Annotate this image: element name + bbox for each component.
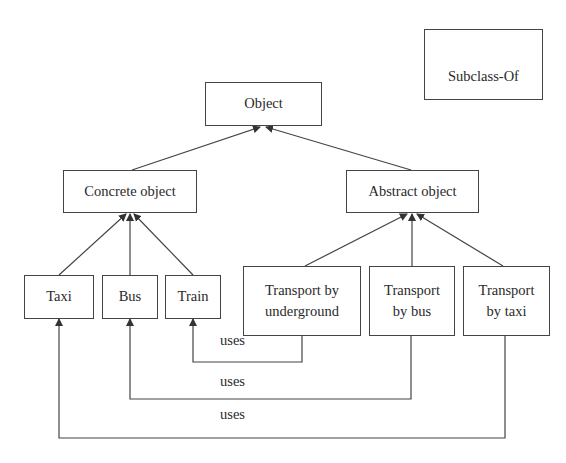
uses-label-bus: uses [220, 373, 245, 390]
edge-underground-to-abstract [305, 214, 407, 266]
class-hierarchy-diagram: Subclass-Of Object Concrete object Abstr… [0, 0, 566, 463]
node-transport-by-taxi: Transport by taxi [463, 266, 550, 336]
uses-label-train: uses [220, 332, 245, 349]
node-abstract-object: Abstract object [346, 170, 479, 213]
node-label: Object [244, 93, 283, 114]
node-transport-by-underground: Transport by underground [243, 266, 361, 336]
node-label: Abstract object [368, 181, 456, 202]
node-label: Taxi [46, 286, 72, 307]
uses-label-taxi: uses [220, 406, 245, 423]
node-taxi: Taxi [24, 275, 94, 319]
node-label-line2: by taxi [487, 301, 527, 322]
edge-abstract-to-object [266, 127, 411, 170]
node-label: Bus [119, 286, 142, 307]
edge-uses-ttaxi-taxi [59, 319, 505, 438]
node-label-line1: Transport [384, 280, 440, 301]
node-bus: Bus [102, 275, 158, 319]
node-concrete-object: Concrete object [63, 170, 197, 213]
edge-ttaxi-to-abstract [417, 214, 503, 266]
node-train: Train [165, 275, 221, 319]
legend-box: Subclass-Of [424, 29, 543, 100]
node-label-line2: by bus [393, 301, 431, 322]
edge-concrete-to-object [132, 127, 260, 170]
node-label: Concrete object [84, 181, 175, 202]
node-label-line2: underground [265, 301, 339, 322]
node-label: Train [178, 286, 209, 307]
node-object: Object [205, 82, 322, 126]
edge-taxi-to-concrete [59, 214, 126, 275]
node-transport-by-bus: Transport by bus [369, 266, 455, 336]
node-label-line1: Transport [479, 280, 535, 301]
node-label-line1: Transport by [265, 280, 339, 301]
edge-train-to-concrete [134, 214, 193, 275]
legend-label: Subclass-Of [448, 66, 519, 87]
